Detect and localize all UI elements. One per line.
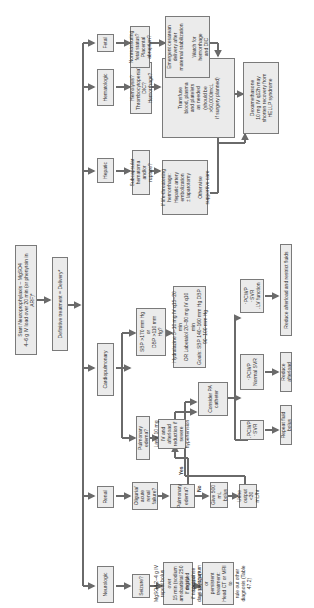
urine-output-box: Urine output <30 mL/hr [239,484,257,508]
yes-label: Yes [178,466,184,475]
delayed-imaging-box: If delayed several days postpartum or pe… [202,562,234,605]
renal-pulmonary-edema-question: Pulmonary edema? [170,484,195,508]
category-hepatic: Hepatic [97,158,114,183]
flowchart-canvas: Start Neuroprophylaxis – MgSO4 4–6 g IV … [0,0,314,608]
pulmonary-edema-question: Pulmonary edema? [136,416,150,460]
dexamethasone-box: Dexamethasone 10 mg IV q12h may shorten … [243,62,279,134]
start-neuroprophylaxis-box: Start Neuroprophylaxis – MgSO4 4–6 g IV … [15,245,37,355]
category-cardiopulmonary: Cardiopulmonary [97,343,114,396]
sbp-dbp-question: SBP >170 mm Hg or DBP >110 mm Hg? [136,308,166,356]
consider-pa-catheter-box: Consider PA catheter [198,382,228,416]
definitive-treatment-box: Definitive treatment = Delivery* [52,257,68,351]
category-hematologic: Hematologic [97,69,114,106]
subcapsular-hematoma-question: Subcapsular hematoma and/or rupture? [132,150,150,195]
hemolysis-question: Hemolysis? Thrombocytopenia? DIC? Hemorr… [130,62,152,114]
seizure-question: Seizure? [132,574,150,598]
give-bolus-box: Give 500 mL bolus [210,482,228,508]
category-neurologic: Neurologic [97,566,114,603]
pcwp-high-lv-function-box: ↑PCWP ↑SVR ↓LV function [240,279,264,313]
oliguria-question: Oliguria/ acute renal failure? [132,482,158,510]
no-label: No [196,485,202,492]
hepatic-supportive-care-box: If life-threatening hemorrhage: Hepatic … [162,160,208,215]
reduce-afterload-box: Reduce afterload [280,352,292,392]
hydralazine-labetalol-box: Hydralazine 5–10 mg IV q15–20 min OR Lab… [173,286,206,368]
repeat-fluid-bolus-box: Repeat fluid bolus [280,405,292,445]
category-fetal: Fetal [97,34,114,52]
pcwp-high-normal-svr-box: ↑PCWP Normal SVR [240,354,264,390]
pcwp-low-svr-high-box: ↓PCWP ↑SVR [240,420,264,440]
category-renal: Renal [97,486,114,508]
lasix-box: Lasix 10 mg IV and afterload reduction i… [158,419,186,449]
emergent-cesarean-box: Emergent cesarean delivery after materna… [165,16,210,78]
reduce-afterload-restrict-fluids-box: Reduce afterload and restrict fluids [280,244,292,336]
nonreassuring-fetal-question: Nonreassuring fetal status? Placental ab… [130,26,150,68]
